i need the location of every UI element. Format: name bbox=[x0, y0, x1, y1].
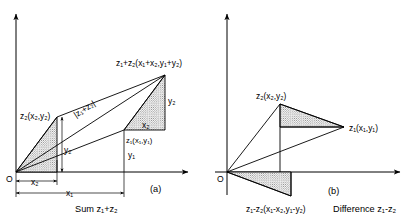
panel-a-label-dim-y2-right: y₂ bbox=[168, 96, 175, 106]
panel-a-panel-label: (a) bbox=[150, 184, 161, 194]
panel-a: O z₂(x₂,y₂) z₁(x₁,y₁) z₁+z₂(x₁+x₂,y₁+y₂)… bbox=[6, 14, 188, 214]
panel-a-label-dim-y1: y₁ bbox=[128, 150, 135, 160]
panel-a-caption: Sum z₁+z₂ bbox=[75, 204, 118, 214]
panel-b-caption: Difference z₁-z₂ bbox=[333, 204, 397, 214]
panel-b-label-z2: z₂(x₂,y₂) bbox=[256, 91, 286, 101]
panel-a-origin-label: O bbox=[6, 174, 13, 184]
panel-a-label-z1: z₁(x₁,y₁) bbox=[126, 136, 153, 145]
panel-b-label-z1: z₁(x₁,y₁) bbox=[349, 123, 378, 133]
panel-a-label-dim-x2: x₂ bbox=[31, 177, 38, 187]
panel-b-label-difference-point: z₁-z₂(x₁-x₂,y₁-y₂) bbox=[246, 204, 306, 214]
panel-a-label-magnitude: |z₁+z₂| bbox=[72, 98, 97, 119]
panel-b: O z₂(x₂,y₂) z₁(x₁,y₁) z₁-z₂(x₁-x₂,y₁-y₂)… bbox=[215, 14, 400, 214]
panel-a-label-dim-x1: x₁ bbox=[66, 188, 73, 198]
panel-b-panel-label: (b) bbox=[328, 186, 339, 196]
figure-svg: O z₂(x₂,y₂) z₁(x₁,y₁) z₁+z₂(x₁+x₂,y₁+y₂)… bbox=[0, 0, 419, 222]
panel-a-label-dim-x2-inner: x₂ bbox=[142, 120, 149, 130]
panel-a-label-z2: z₂(x₂,y₂) bbox=[20, 111, 50, 121]
panel-b-origin-label: O bbox=[217, 174, 224, 184]
panel-a-label-dim-y2-left: y₂ bbox=[64, 145, 71, 155]
panel-a-label-sum: z₁+z₂(x₁+x₂,y₁+y₂) bbox=[116, 58, 182, 68]
complex-number-figure: O z₂(x₂,y₂) z₁(x₁,y₁) z₁+z₂(x₁+x₂,y₁+y₂)… bbox=[0, 0, 419, 222]
